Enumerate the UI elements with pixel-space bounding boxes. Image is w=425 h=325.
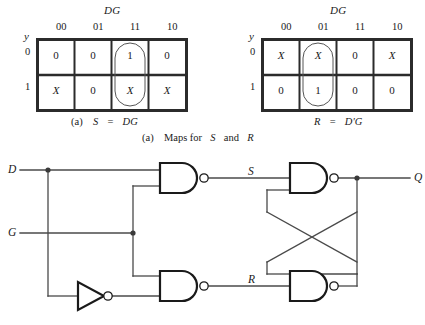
kmap-s-col-header-0: 00 xyxy=(56,22,67,33)
kmap-r-cell-r0c2: 0 xyxy=(335,50,375,61)
gate-nand-q xyxy=(290,163,338,193)
kmap-s-col-header-3: 10 xyxy=(167,22,178,33)
figure-caption-var1: S xyxy=(210,132,215,143)
kmap-r-top-label: DG xyxy=(330,5,346,16)
kmap-r-caption: R = D'G xyxy=(314,117,362,128)
kmap-r-cell-r1c3: 0 xyxy=(372,85,412,96)
kmap-r-cell-r0c3: X xyxy=(372,50,412,61)
junction-dot-g xyxy=(130,230,135,235)
circuit-label-r: R xyxy=(248,274,255,286)
kmap-s-cell-r1c1: 0 xyxy=(73,85,113,96)
circuit-label-d: D xyxy=(8,164,16,176)
kmap-r-col-header-1: 01 xyxy=(318,22,329,33)
figure-caption-var2: R xyxy=(247,132,253,143)
kmap-r-cell-r1c0: 0 xyxy=(261,85,301,96)
kmap-r-cell-r0c1: X xyxy=(298,50,338,61)
kmap-s-caption-rhs: DG xyxy=(123,116,138,127)
kmap-s-row-header-0: 0 xyxy=(25,47,30,58)
figure-caption-text: Maps for xyxy=(164,132,202,143)
circuit-label-q: Q xyxy=(414,172,422,184)
kmap-r-row-header-1: 1 xyxy=(250,82,255,93)
kmap-r-col-header-3: 10 xyxy=(392,22,403,33)
kmap-s-cell-r0c0: 0 xyxy=(36,50,76,61)
kmap-r-row-header-0: 0 xyxy=(250,47,255,58)
kmap-r-cell-r1c1: 1 xyxy=(298,85,338,96)
junction-dot-d xyxy=(45,167,50,172)
figure-caption-prefix: (a) xyxy=(142,132,154,143)
kmap-s-caption-lhs: S xyxy=(93,116,98,127)
kmap-s-row-header-1: 1 xyxy=(25,82,30,93)
circuit-diagram xyxy=(0,150,425,325)
kmap-r-caption-rhs: D'G xyxy=(345,116,362,127)
figure-root: DG 00 01 11 10 y 0 1 0 0 1 0 X 0 X X (a)… xyxy=(0,0,425,325)
kmap-r-col-header-2: 11 xyxy=(355,22,365,33)
kmap-s-cell-r0c1: 0 xyxy=(73,50,113,61)
kmap-s-caption-prefix: (a) xyxy=(71,116,83,127)
kmap-s-cell-r0c3: 0 xyxy=(147,50,187,61)
kmap-r-col-header-0: 00 xyxy=(281,22,292,33)
figure-caption: (a) Maps for S and R xyxy=(142,133,254,144)
kmap-s-caption: (a) S = DG xyxy=(71,117,138,128)
kmap-r-caption-lhs: R xyxy=(314,116,320,127)
kmap-s-row-var: y xyxy=(24,31,29,42)
kmap-s-top-label: DG xyxy=(104,5,120,16)
kmap-r-caption-eq: = xyxy=(330,116,336,127)
kmap-s-cell-r1c2: X xyxy=(110,85,150,96)
kmap-r-row-var: y xyxy=(249,31,254,42)
kmap-s-cell-r0c2: 1 xyxy=(110,50,150,61)
gate-nand-qnot xyxy=(290,271,338,301)
kmap-s-col-header-1: 01 xyxy=(93,22,104,33)
circuit-label-g: G xyxy=(8,227,16,239)
kmap-r-cell-r0c0: X xyxy=(261,50,301,61)
gate-inverter-d xyxy=(78,282,112,310)
kmap-s-col-header-2: 11 xyxy=(130,22,140,33)
kmap-r-cell-r1c2: 0 xyxy=(335,85,375,96)
gate-nand-s xyxy=(160,163,208,193)
kmap-s-caption-eq: = xyxy=(107,116,113,127)
gate-nand-r xyxy=(160,271,208,301)
circuit-label-s: S xyxy=(248,166,254,178)
kmap-s-cell-r1c0: X xyxy=(36,85,76,96)
figure-caption-conj: and xyxy=(224,132,239,143)
junction-dot-q xyxy=(354,175,359,180)
kmap-s-cell-r1c3: X xyxy=(147,85,187,96)
